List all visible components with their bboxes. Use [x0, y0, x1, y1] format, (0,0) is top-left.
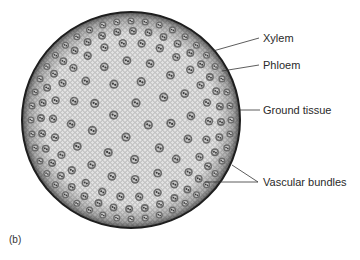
label-vascular-bundles: Vascular bundles [263, 176, 347, 188]
stem-cross-section-figure: Xylem Phloem Ground tissue Vascular bund… [0, 0, 360, 260]
label-ground-tissue: Ground tissue [263, 104, 331, 116]
label-phloem: Phloem [263, 59, 300, 71]
vascular-leader-1 [232, 165, 258, 182]
panel-label: (b) [9, 234, 21, 245]
stem-diagram [0, 0, 360, 260]
xylem-leader [213, 38, 259, 51]
label-xylem: Xylem [263, 32, 294, 44]
